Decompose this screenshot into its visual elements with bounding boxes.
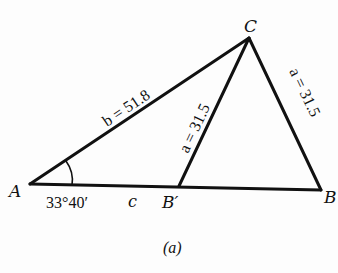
side-a-right-label: a = 31.5 (286, 65, 324, 119)
vertex-b-label: B (323, 187, 337, 207)
vertex-c-label: C (244, 16, 257, 36)
triangle-diagram: A C B B′ 33°40′ c b = 51.8 a = 31.5 a = … (0, 0, 338, 273)
vertex-b-prime-label: B′ (161, 192, 178, 212)
side-b-line (30, 38, 249, 184)
vertex-a-label: A (7, 181, 21, 201)
angle-a-label: 33°40′ (46, 194, 88, 211)
figure-caption: (a) (163, 239, 182, 257)
side-c-line (30, 184, 321, 190)
side-c-label: c (128, 192, 137, 211)
angle-arc (66, 161, 72, 185)
